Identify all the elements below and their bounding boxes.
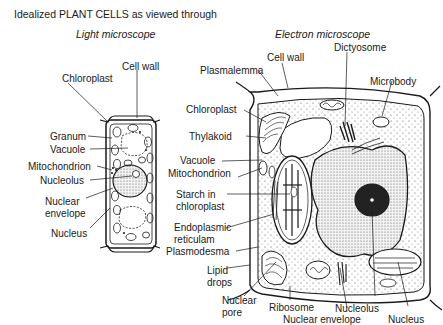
label-nucleolus-em: Nucleolus: [335, 303, 379, 314]
label-nucleolus-light: Nucleolus: [40, 175, 84, 186]
label-mitochondrion-em: Mitochondrion: [168, 168, 231, 179]
label-mitochondrion-light: Mitochondrion: [28, 161, 91, 172]
label-cell-wall-em: Cell wall: [267, 52, 304, 63]
label-starch-em-2: chloroplast: [176, 201, 224, 212]
label-chloroplast-em: Chloroplast: [186, 104, 237, 115]
label-granum-light: Granum: [50, 131, 86, 142]
label-chloroplast-light: Chloroplast: [62, 73, 113, 84]
label-nuclear-pore-em-1: Nuclear: [222, 295, 256, 306]
label-microbody-em: Microbody: [370, 76, 416, 87]
label-lipid-em-2: drops: [207, 277, 232, 288]
label-nuclear-envelope-em: Nuclear envelope: [283, 314, 361, 325]
label-vacuole-light: Vacuole: [50, 144, 85, 155]
label-er-em-1: Endoplasmic: [174, 222, 231, 233]
label-cell-wall-light: Cell wall: [122, 61, 159, 72]
label-plasmodesma-em: Plasmodesma: [166, 246, 229, 257]
label-thylakoid-em: Thylakoid: [189, 131, 232, 142]
label-dictyosome-em: Dictyosome: [334, 42, 386, 53]
label-plasmalemma-em: Plasmalemma: [200, 65, 263, 76]
label-nuclear-envelope-light-2: envelope: [45, 208, 86, 219]
label-nuclear-pore-em-2: pore: [222, 307, 242, 318]
label-ribosome-em: Ribosome: [269, 302, 314, 313]
label-starch-em-1: Starch in: [176, 189, 215, 200]
label-lipid-em-1: Lipid: [207, 265, 228, 276]
label-nucleus-em: Nucleus: [388, 314, 424, 325]
electron-cell: [222, 52, 442, 310]
label-nucleus-light: Nucleus: [51, 228, 87, 239]
label-nuclear-envelope-light-1: Nuclear: [45, 196, 79, 207]
label-vacuole-em: Vacuole: [180, 155, 215, 166]
label-er-em-2: reticulam: [174, 234, 215, 245]
